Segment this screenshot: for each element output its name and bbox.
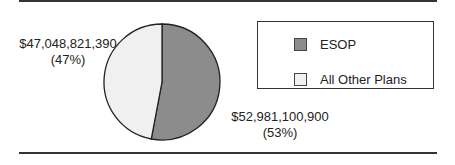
slice-value: $47,048,821,390: [19, 36, 117, 51]
legend-swatch-icon: [294, 73, 307, 86]
bottom-rule: [19, 152, 437, 154]
slice-label-esop: $52,981,100,900 (53%): [224, 109, 336, 141]
legend-item-esop: ESOP: [294, 36, 356, 52]
legend-swatch-icon: [294, 38, 307, 51]
legend-item-all-other-plans: All Other Plans: [294, 71, 407, 87]
legend-label: ESOP: [320, 37, 356, 52]
slice-percent: (53%): [224, 125, 336, 141]
slice-value: $52,981,100,900: [231, 109, 329, 124]
slice-percent: (47%): [18, 52, 118, 68]
chart-legend: ESOP All Other Plans: [257, 21, 434, 89]
legend-label: All Other Plans: [320, 72, 407, 87]
slice-label-all-other-plans: $47,048,821,390 (47%): [18, 36, 118, 68]
